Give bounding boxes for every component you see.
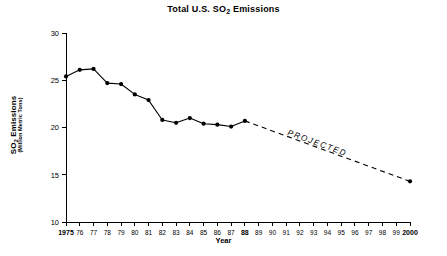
data-point-marker — [78, 68, 82, 72]
axes-group — [66, 33, 410, 222]
projected-endpoint-marker — [408, 179, 412, 183]
historical-line — [66, 69, 245, 127]
data-point-marker — [202, 122, 206, 126]
x-tick-label: 86 — [214, 229, 222, 236]
data-markers-group — [64, 67, 412, 184]
x-tick-label: 90 — [269, 229, 277, 236]
x-tick-label: 95 — [338, 229, 346, 236]
data-point-marker — [146, 98, 150, 102]
x-tick-label: 87 — [228, 229, 236, 236]
x-tick-label: 81 — [145, 229, 153, 236]
x-tick-label: 76 — [76, 229, 84, 236]
y-tick-label: 25 — [51, 76, 59, 85]
x-tick-label: 93 — [310, 229, 318, 236]
x-tick-label: 96 — [351, 229, 359, 236]
x-tick-label: 97 — [365, 229, 373, 236]
projected-label: PROJECTED — [286, 128, 348, 158]
x-tick-label: 88 — [241, 229, 249, 236]
data-point-marker — [188, 116, 192, 120]
x-tick-label: 85 — [200, 229, 208, 236]
x-tick-label: 82 — [159, 229, 167, 236]
x-tick-label: 1975 — [58, 229, 74, 236]
x-tick-label: 83 — [172, 229, 180, 236]
x-tick-label: 77 — [90, 229, 98, 236]
x-tick-label: 2000 — [402, 229, 418, 236]
data-point-marker — [160, 118, 164, 122]
y-tick-label: 10 — [51, 218, 59, 227]
data-point-marker — [243, 119, 247, 123]
plot-area: 3025201510 19757677787980818283848586878… — [0, 0, 447, 256]
x-tick-label: 94 — [324, 229, 332, 236]
x-tick-label: 78 — [104, 229, 112, 236]
data-point-marker — [229, 124, 233, 128]
y-tick-label: 20 — [51, 123, 59, 132]
x-tick-label: 79 — [117, 229, 125, 236]
x-tick-label: 99 — [393, 229, 401, 236]
y-tick-label: 15 — [51, 171, 59, 180]
data-point-marker — [119, 82, 123, 86]
data-point-marker — [133, 92, 137, 96]
x-tick-label: 80 — [131, 229, 139, 236]
y-tick-label: 30 — [51, 29, 59, 38]
data-point-marker — [215, 123, 219, 127]
data-point-marker — [91, 67, 95, 71]
data-point-marker — [64, 74, 68, 78]
x-axis-ticks: 1975767778798081828384858687888990919293… — [58, 222, 418, 236]
so2-emissions-chart: Total U.S. SO2 Emissions SO2 Emissions (… — [0, 0, 447, 256]
x-tick-label: 89 — [255, 229, 263, 236]
projected-annotation: PROJECTED — [286, 128, 348, 158]
x-tick-label: 92 — [296, 229, 304, 236]
data-point-marker — [105, 81, 109, 85]
x-tick-label: 84 — [186, 229, 194, 236]
x-axis-label: Year — [0, 236, 447, 245]
x-tick-label: 91 — [283, 229, 291, 236]
y-axis-ticks: 3025201510 — [51, 29, 66, 227]
data-series-group — [66, 69, 410, 181]
data-point-marker — [174, 121, 178, 125]
x-tick-label: 98 — [379, 229, 387, 236]
